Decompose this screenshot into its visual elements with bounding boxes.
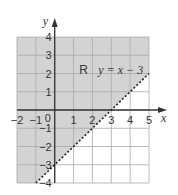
region-label: R — [79, 63, 88, 77]
x-tick-label: 4 — [127, 114, 133, 126]
inequality-graph: −2−1012345−4−3−2−11234 x y R y = x − 3 — [0, 0, 178, 195]
x-tick-label: −2 — [11, 114, 24, 126]
y-tick-label: −4 — [39, 177, 52, 189]
x-tick-label: 1 — [71, 114, 77, 126]
y-tick-label: −2 — [39, 141, 52, 153]
x-tick-label: 3 — [108, 114, 114, 126]
equation-label: y = x − 3 — [97, 63, 143, 77]
y-tick-label: −3 — [39, 159, 52, 171]
x-tick-label: 5 — [146, 114, 152, 126]
y-tick-label: −1 — [39, 122, 52, 134]
y-axis-label: y — [42, 14, 49, 28]
x-tick-label: 2 — [89, 114, 95, 126]
y-axis-arrow-icon — [52, 18, 58, 27]
y-tick-label: 1 — [46, 86, 52, 98]
y-tick-label: 4 — [46, 31, 52, 43]
y-tick-label: 2 — [46, 68, 52, 80]
y-tick-label: 3 — [46, 49, 52, 61]
x-axis-label: x — [160, 111, 167, 125]
